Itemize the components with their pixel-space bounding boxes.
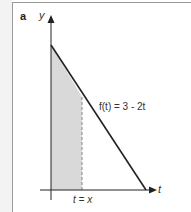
function-label: f(t) = 3 - 2t (99, 101, 145, 112)
x-axis-arrow-icon (149, 187, 157, 194)
marker-label: t = x (73, 194, 92, 205)
x-axis-label: t (158, 183, 161, 195)
y-axis-arrow-icon (48, 15, 55, 23)
graph (0, 0, 191, 212)
y-axis-label: y (39, 9, 45, 21)
shaded-area (51, 45, 82, 190)
